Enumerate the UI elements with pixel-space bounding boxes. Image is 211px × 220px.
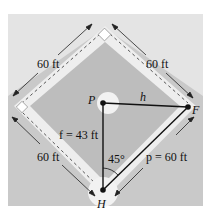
label-segment-f: f = 43 ft (59, 128, 99, 142)
point-p (100, 100, 106, 106)
label-angle: 45° (108, 152, 125, 166)
label-point-h: H (96, 197, 107, 211)
label-top-left-60ft: 60 ft (37, 57, 60, 71)
point-h (100, 187, 106, 193)
label-top-right-60ft: 60 ft (146, 57, 169, 71)
label-segment-p: p = 60 ft (146, 150, 188, 164)
baseball-diamond-diagram: 60 ft 60 ft 60 ft P F H h f = 43 ft p = … (0, 0, 211, 220)
label-bottom-left-60ft: 60 ft (37, 150, 60, 164)
label-segment-h: h (140, 90, 146, 104)
label-point-p: P (87, 93, 96, 107)
point-f (185, 104, 191, 110)
label-point-f: F (191, 103, 200, 117)
